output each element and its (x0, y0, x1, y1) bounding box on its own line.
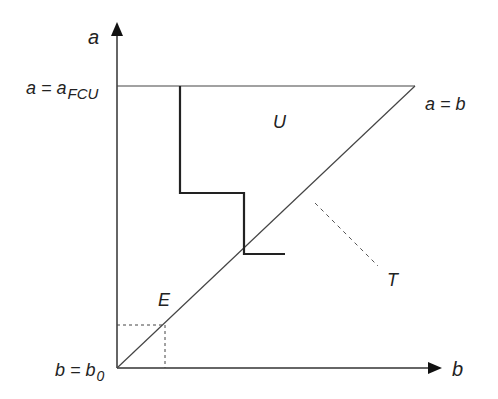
region-e-label: E (158, 290, 171, 310)
y-axis-label: a (88, 26, 99, 48)
fcu-label: a = aFCU (26, 78, 99, 102)
region-u-label: U (273, 112, 287, 132)
diagonal-line (117, 86, 415, 368)
x-axis-arrow-icon (428, 362, 442, 374)
y-axis-arrow-icon (111, 22, 123, 36)
tangent-label: T (387, 270, 400, 290)
diagonal-label: a = b (425, 94, 466, 114)
tangent-leader (315, 203, 378, 266)
origin-label: b = b0 (55, 360, 105, 384)
x-axis-label: b (452, 358, 463, 380)
staircase-path (180, 86, 285, 254)
phase-diagram: a b a = aFCU b = b0 a = b U E T (0, 0, 498, 399)
